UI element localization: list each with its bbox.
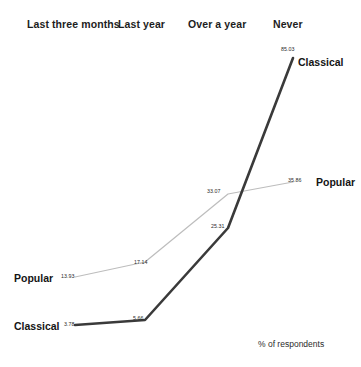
column-header-last-year: Last year <box>118 18 165 30</box>
point-value-popular-last-year: 17.14 <box>134 259 148 265</box>
series-label-classical-right: Classical <box>298 56 344 68</box>
series-line-classical <box>75 58 293 325</box>
series-label-classical-left: Classical <box>14 320 60 332</box>
axis-note-percent-of-respondents: % of respondents <box>258 339 324 349</box>
point-value-popular-never: 35.86 <box>288 177 302 183</box>
series-line-popular <box>75 182 293 277</box>
column-header-last-three-months: Last three months <box>27 18 120 30</box>
point-value-classical-never: 85.03 <box>281 46 295 52</box>
point-value-classical-over-a-year: 25.31 <box>211 223 225 229</box>
point-value-popular-last-three-months: 13.93 <box>61 273 75 279</box>
series-label-popular-left: Popular <box>14 272 53 284</box>
column-header-never: Never <box>273 18 303 30</box>
point-value-classical-last-year: 5.66 <box>133 315 144 321</box>
point-value-popular-over-a-year: 33.07 <box>207 188 221 194</box>
slopegraph-chart: Last three months Last year Over a year … <box>0 0 361 367</box>
point-value-classical-last-three-months: 3.78 <box>64 321 75 327</box>
column-header-over-a-year: Over a year <box>188 18 246 30</box>
series-label-popular-right: Popular <box>316 176 355 188</box>
